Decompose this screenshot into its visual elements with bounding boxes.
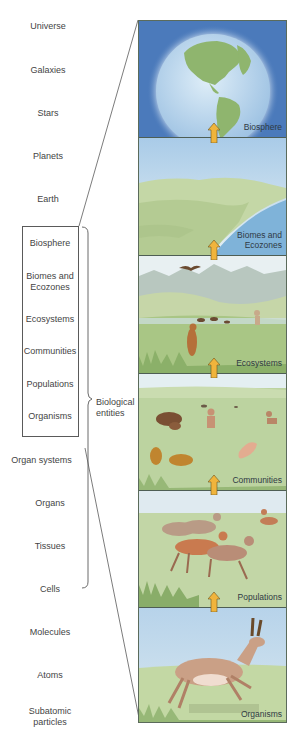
up-arrow-icon [208, 123, 220, 143]
community-illustration [139, 374, 286, 491]
up-arrow-icon [208, 240, 220, 260]
panel-label-organisms: Organisms [241, 709, 282, 719]
up-arrow-icon [208, 475, 220, 495]
level-stars: Stars [0, 108, 96, 119]
up-arrow-icon [208, 358, 220, 378]
level-galaxies: Galaxies [0, 65, 96, 76]
level-earth: Earth [0, 194, 96, 205]
ecosystem-illustration [139, 256, 286, 374]
population-illustration [139, 491, 286, 608]
level-biosphere: Biosphere [0, 238, 100, 249]
panel-ecosystems: Ecosystems [139, 256, 286, 374]
level-molecules: Molecules [0, 627, 100, 638]
level-populations: Populations [0, 379, 100, 390]
panel-biomes-ecozones: Biomes and Ecozones [139, 138, 286, 256]
level-communities: Communities [0, 346, 100, 357]
level-organs: Organs [0, 498, 100, 509]
level-planets: Planets [0, 151, 96, 162]
panel-communities: Communities [139, 374, 286, 491]
panel-label-communities: Communities [232, 475, 282, 485]
panel-label-populations: Populations [238, 592, 282, 602]
level-atoms: Atoms [0, 670, 100, 681]
level-universe: Universe [0, 21, 96, 32]
level-ecosystems: Ecosystems [0, 314, 100, 325]
level-organ-systems: Organ systems [0, 455, 83, 466]
panel-organisms: Organisms [139, 608, 286, 723]
biological-box [22, 226, 79, 437]
level-organisms: Organisms [0, 411, 100, 422]
level-subatomic-particles: Subatomic particles [0, 706, 100, 728]
level-biomes-ecozones: Biomes and Ecozones [0, 271, 100, 293]
panel-label-biomes-ecozones: Biomes and Ecozones [222, 230, 282, 250]
illustration-column: Biosphere Biomes and Ecozones [138, 20, 287, 723]
panel-biosphere: Biosphere [139, 21, 286, 138]
level-cells: Cells [0, 584, 100, 595]
panel-label-biosphere: Biosphere [244, 122, 282, 132]
organism-illustration [139, 608, 286, 723]
panel-populations: Populations [139, 491, 286, 608]
panel-label-ecosystems: Ecosystems [236, 358, 282, 368]
up-arrow-icon [208, 592, 220, 612]
level-tissues: Tissues [0, 541, 100, 552]
globe-illustration [139, 21, 286, 138]
